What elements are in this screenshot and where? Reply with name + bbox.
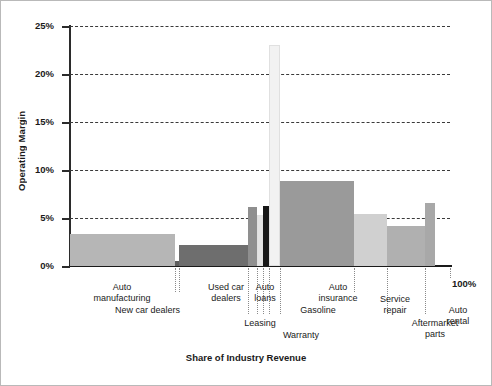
- bar-service-repair[interactable]: [354, 214, 387, 266]
- gridline-25: [70, 26, 450, 27]
- x-axis-title: Share of Industry Revenue: [0, 352, 492, 363]
- bar-aftermarket-parts[interactable]: [387, 226, 425, 266]
- x-axis-end-label: 100%: [452, 278, 476, 289]
- y-axis-title: Operating Margin: [14, 96, 28, 206]
- y-tick-label-0: 0%: [14, 260, 54, 271]
- tick-leader-9: [425, 268, 426, 314]
- category-label-warranty: Warranty: [270, 330, 332, 341]
- gridline-10: [70, 170, 450, 171]
- y-tick-label-20: 20%: [14, 68, 54, 79]
- y-tick-label-5: 5%: [14, 212, 54, 223]
- y-tick-mark-25: [62, 26, 70, 28]
- category-label-auto-rental: Auto rental: [432, 305, 484, 326]
- category-label-service-repair: Service repair: [366, 294, 424, 315]
- category-label-leasing: Leasing: [234, 318, 286, 329]
- y-tick-label-25: 25%: [14, 20, 54, 31]
- y-tick-label-15: 15%: [14, 116, 54, 127]
- gridline-20: [70, 74, 450, 75]
- bar-auto-manufacturing[interactable]: [70, 234, 175, 266]
- y-tick-mark-5: [62, 218, 70, 220]
- bar-gasoline[interactable]: [269, 45, 280, 266]
- gridline-15: [70, 122, 450, 123]
- bar-auto-insurance[interactable]: [280, 181, 354, 266]
- bar-auto-loans[interactable]: [248, 207, 257, 266]
- y-tick-mark-0: [62, 266, 70, 268]
- category-label-new-car-dealers: New car dealers: [80, 305, 215, 316]
- category-label-auto-manufacturing: Auto manufacturing: [72, 282, 172, 303]
- bar-used-car-dealers[interactable]: [179, 245, 247, 266]
- category-label-auto-insurance: Auto insurance: [300, 282, 376, 303]
- chart-figure: Operating Margin 0%5%10%15%20%25% Auto m…: [0, 0, 492, 386]
- category-label-gasoline: Gasoline: [289, 305, 347, 316]
- category-label-auto-loans: Auto loans: [244, 282, 286, 303]
- y-tick-label-10: 10%: [14, 164, 54, 175]
- tick-leader-10: [450, 268, 451, 278]
- plot-area: [70, 26, 450, 266]
- y-tick-mark-15: [62, 122, 70, 124]
- tick-leader-0: [175, 268, 176, 292]
- y-tick-mark-20: [62, 74, 70, 76]
- y-tick-mark-10: [62, 170, 70, 172]
- bar-auto-rental[interactable]: [425, 203, 435, 266]
